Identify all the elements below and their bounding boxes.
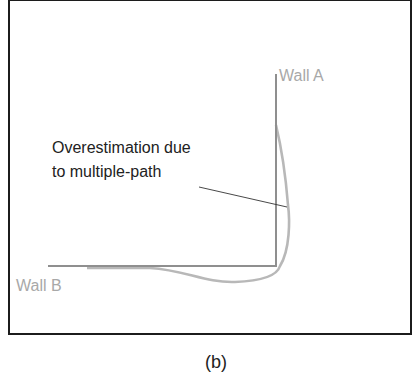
wall-b-label: Wall B [16,277,62,295]
annotation-pointer [199,187,287,207]
annotation-line-1: Overestimation due [52,136,191,160]
figure-caption: (b) [0,352,414,373]
wall-a-label: Wall A [279,67,324,85]
wall-diagram [0,0,414,377]
annotation-text: Overestimation due to multiple-path [52,136,191,184]
annotation-line-2: to multiple-path [52,160,191,184]
